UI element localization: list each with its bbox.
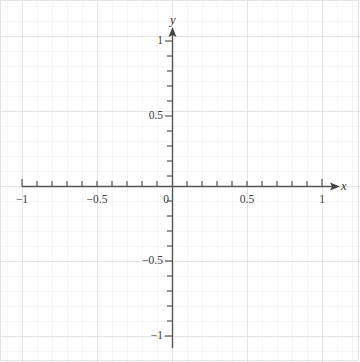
x-tick-label-1: 1 xyxy=(319,194,325,206)
grid-svg xyxy=(0,0,360,362)
x-tick-label-neg0_5: −0.5 xyxy=(87,194,108,206)
grid-plane xyxy=(0,0,360,362)
x-tick-label-neg1: −1 xyxy=(16,194,28,206)
coordinate-plane-figure: −1 −0.5 0 0.5 1 1 0.5 −0.5 −1 x y xyxy=(0,0,360,362)
y-tick-label-neg0_5: −0.5 xyxy=(142,255,163,267)
y-tick-label-1: 1 xyxy=(157,35,163,47)
y-tick-label-0_5: 0.5 xyxy=(149,110,163,122)
y-axis-label: y xyxy=(170,14,176,27)
x-tick-label-zero: 0 xyxy=(163,194,169,206)
x-axis-label: x xyxy=(341,180,347,193)
x-tick-label-0_5: 0.5 xyxy=(240,194,254,206)
y-tick-label-neg1: −1 xyxy=(151,330,163,342)
